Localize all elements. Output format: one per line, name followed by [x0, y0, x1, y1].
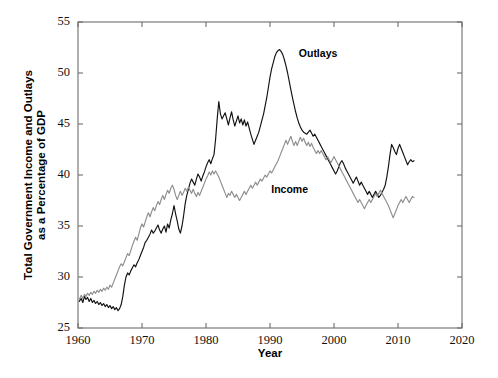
- y-axis-title-line1: Total Government Income and Outlays: [22, 70, 34, 280]
- plot-frame: [78, 22, 462, 328]
- annotation-layer: OutlaysIncome: [271, 47, 337, 196]
- x-axis-ticks: 1960197019801990200020102020: [66, 22, 475, 347]
- y-tick-label: 45: [58, 116, 71, 130]
- x-tick-label: 2020: [450, 333, 475, 347]
- line-chart: 25303540455055 1960197019801990200020102…: [0, 0, 498, 378]
- x-tick-label: 1980: [194, 333, 219, 347]
- series-annotation-outlays: Outlays: [299, 47, 338, 59]
- series-line-outlays: [79, 50, 414, 311]
- x-tick-label: 2010: [386, 333, 411, 347]
- x-tick-label: 2000: [322, 333, 347, 347]
- y-axis-title-line2: as a Percentage of GDP: [35, 110, 47, 240]
- y-tick-label: 50: [58, 65, 71, 79]
- x-axis-title: Year: [258, 347, 283, 359]
- series-layer: [79, 50, 414, 311]
- chart-container: 25303540455055 1960197019801990200020102…: [0, 0, 498, 378]
- y-tick-label: 40: [58, 167, 71, 181]
- y-tick-label: 35: [58, 218, 71, 232]
- y-tick-label: 55: [58, 14, 71, 28]
- y-tick-label: 30: [58, 269, 71, 283]
- y-axis-ticks: 25303540455055: [58, 14, 463, 334]
- x-tick-label: 1970: [130, 333, 155, 347]
- series-annotation-income: Income: [271, 183, 308, 195]
- x-tick-label: 1990: [258, 333, 283, 347]
- x-tick-label: 1960: [66, 333, 91, 347]
